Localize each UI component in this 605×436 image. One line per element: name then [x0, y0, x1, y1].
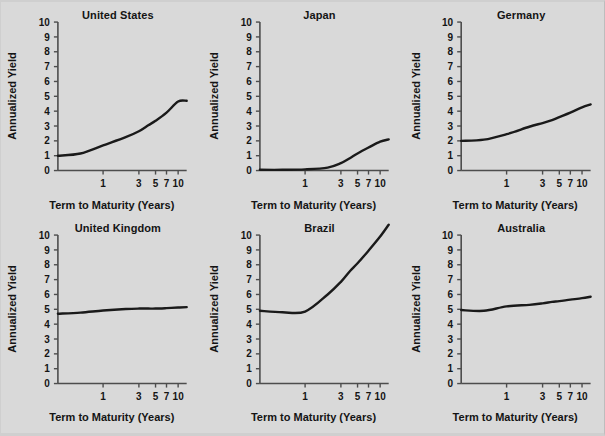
- svg-text:1: 1: [44, 363, 50, 374]
- svg-text:8: 8: [448, 259, 454, 270]
- x-axis-label-2: Term to Maturity (Years): [428, 199, 602, 211]
- y-axis-label-5: Annualized Yield: [406, 215, 424, 428]
- svg-text:5: 5: [354, 178, 360, 189]
- chart-svg-3: 012345678910135710: [1, 215, 203, 428]
- svg-text:2: 2: [44, 135, 50, 146]
- x-axis-label-1: Term to Maturity (Years): [227, 199, 401, 211]
- svg-text:1: 1: [448, 363, 454, 374]
- svg-text:3: 3: [338, 178, 344, 189]
- svg-text:7: 7: [365, 178, 371, 189]
- svg-text:1: 1: [44, 150, 50, 161]
- svg-text:3: 3: [136, 390, 142, 401]
- svg-text:0: 0: [246, 165, 252, 176]
- svg-text:5: 5: [448, 91, 454, 102]
- chart-svg-2: 012345678910135710: [404, 2, 605, 215]
- svg-text:1: 1: [246, 363, 252, 374]
- svg-text:0: 0: [44, 378, 50, 389]
- svg-text:3: 3: [338, 390, 344, 401]
- svg-text:8: 8: [246, 259, 252, 270]
- svg-text:9: 9: [44, 32, 50, 43]
- svg-text:9: 9: [448, 244, 454, 255]
- x-axis-label-4: Term to Maturity (Years): [227, 411, 401, 423]
- svg-text:3: 3: [540, 390, 546, 401]
- svg-text:6: 6: [44, 289, 50, 300]
- svg-text:5: 5: [153, 390, 159, 401]
- chart-svg-0: 012345678910135710: [1, 2, 203, 215]
- series-line: [462, 296, 591, 310]
- x-axis-label-0: Term to Maturity (Years): [25, 199, 199, 211]
- svg-text:4: 4: [246, 318, 252, 329]
- chart-panel-japan: 012345678910135710 Japan Annualized Yiel…: [203, 2, 405, 215]
- svg-text:4: 4: [44, 318, 50, 329]
- x-axis-label-3: Term to Maturity (Years): [25, 411, 199, 423]
- svg-text:6: 6: [448, 289, 454, 300]
- svg-text:7: 7: [164, 390, 170, 401]
- svg-text:3: 3: [44, 121, 50, 132]
- series-line: [58, 100, 187, 155]
- svg-text:1: 1: [100, 178, 106, 189]
- svg-text:2: 2: [246, 348, 252, 359]
- svg-text:2: 2: [448, 348, 454, 359]
- svg-text:4: 4: [246, 106, 252, 117]
- svg-text:6: 6: [448, 76, 454, 87]
- x-axis-label-5: Term to Maturity (Years): [428, 411, 602, 423]
- svg-text:7: 7: [365, 390, 371, 401]
- chart-title-1: Japan: [203, 9, 405, 21]
- svg-text:2: 2: [246, 135, 252, 146]
- svg-text:7: 7: [246, 61, 252, 72]
- svg-text:3: 3: [448, 333, 454, 344]
- svg-text:7: 7: [448, 274, 454, 285]
- y-axis-label-2: Annualized Yield: [406, 2, 424, 215]
- svg-text:2: 2: [44, 348, 50, 359]
- y-axis-label-4: Annualized Yield: [205, 215, 223, 428]
- chart-svg-4: 012345678910135710: [203, 215, 405, 428]
- svg-text:1: 1: [100, 390, 106, 401]
- svg-text:4: 4: [448, 106, 454, 117]
- svg-text:3: 3: [44, 333, 50, 344]
- svg-text:7: 7: [44, 61, 50, 72]
- svg-text:8: 8: [44, 46, 50, 57]
- svg-text:5: 5: [354, 390, 360, 401]
- chart-title-2: Germany: [404, 9, 605, 21]
- svg-text:5: 5: [153, 178, 159, 189]
- chart-title-3: United Kingdom: [1, 222, 203, 234]
- svg-text:1: 1: [302, 178, 308, 189]
- series-line: [260, 224, 389, 312]
- svg-text:9: 9: [448, 32, 454, 43]
- svg-text:10: 10: [173, 390, 185, 401]
- svg-text:5: 5: [557, 178, 563, 189]
- svg-text:4: 4: [448, 318, 454, 329]
- svg-text:7: 7: [448, 61, 454, 72]
- svg-text:3: 3: [246, 121, 252, 132]
- svg-text:5: 5: [246, 304, 252, 315]
- y-axis-label-1: Annualized Yield: [205, 2, 223, 215]
- svg-text:0: 0: [246, 378, 252, 389]
- chart-panel-united-states: 012345678910135710 United States Annuali…: [1, 2, 203, 215]
- svg-text:5: 5: [557, 390, 563, 401]
- svg-text:1: 1: [448, 150, 454, 161]
- series-line: [462, 104, 591, 140]
- chart-title-5: Australia: [404, 222, 605, 234]
- svg-text:6: 6: [246, 76, 252, 87]
- svg-text:5: 5: [44, 91, 50, 102]
- svg-text:9: 9: [246, 32, 252, 43]
- chart-panel-australia: 012345678910135710 Australia Annualized …: [404, 215, 605, 428]
- svg-text:10: 10: [173, 178, 185, 189]
- svg-text:3: 3: [136, 178, 142, 189]
- svg-text:5: 5: [246, 91, 252, 102]
- svg-text:2: 2: [448, 135, 454, 146]
- svg-text:6: 6: [246, 289, 252, 300]
- svg-text:9: 9: [44, 244, 50, 255]
- svg-text:7: 7: [568, 178, 574, 189]
- svg-text:3: 3: [540, 178, 546, 189]
- figure-panel: 012345678910135710 United States Annuali…: [0, 0, 605, 436]
- svg-text:7: 7: [246, 274, 252, 285]
- svg-text:8: 8: [246, 46, 252, 57]
- svg-text:0: 0: [44, 165, 50, 176]
- svg-text:1: 1: [504, 390, 510, 401]
- svg-text:7: 7: [44, 274, 50, 285]
- chart-title-4: Brazil: [203, 222, 405, 234]
- series-line: [58, 307, 187, 314]
- chart-svg-5: 012345678910135710: [404, 215, 605, 428]
- svg-text:6: 6: [44, 76, 50, 87]
